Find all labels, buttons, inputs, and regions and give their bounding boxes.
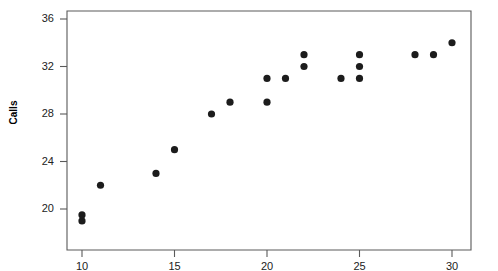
data-point: [171, 146, 178, 153]
data-point: [300, 51, 307, 58]
data-point: [337, 75, 344, 82]
axis-tick-marks: [60, 19, 452, 257]
data-point: [97, 182, 104, 189]
data-point: [300, 63, 307, 70]
plot-frame-border: [67, 11, 471, 250]
data-point: [356, 75, 363, 82]
data-point: [152, 170, 159, 177]
data-point: [356, 63, 363, 70]
data-point: [208, 110, 215, 117]
data-point: [78, 211, 85, 218]
plot-frame: [67, 11, 471, 250]
data-point: [282, 75, 289, 82]
data-point: [263, 99, 270, 106]
plot-area: [0, 0, 498, 271]
data-point: [448, 39, 455, 46]
scatter-plot: Calls 2024283236 1015202530: [0, 0, 498, 271]
data-point: [430, 51, 437, 58]
data-point: [226, 99, 233, 106]
data-point: [356, 51, 363, 58]
data-points-group: [78, 39, 455, 224]
data-point: [263, 75, 270, 82]
data-point: [411, 51, 418, 58]
